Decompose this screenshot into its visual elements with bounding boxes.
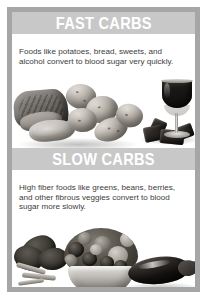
carbs-infographic: FAST CARBS Foods like potatoes, bread, s… xyxy=(7,7,200,292)
slow-carbs-photo xyxy=(12,222,195,287)
section-fast-carbs: FAST CARBS Foods like potatoes, bread, s… xyxy=(12,12,195,148)
slow-carbs-description: High fiber foods like greens, beans, ber… xyxy=(12,178,195,214)
potato-eye xyxy=(116,130,119,133)
fast-carbs-heading: FAST CARBS xyxy=(56,15,152,32)
potato-eye xyxy=(98,107,101,109)
kale-stalk xyxy=(18,278,44,286)
berry xyxy=(90,244,102,255)
potato-eye xyxy=(107,127,110,130)
slow-carbs-heading: SLOW CARBS xyxy=(52,151,154,168)
eggplant-illustration xyxy=(128,252,195,287)
bowl xyxy=(68,266,134,287)
wine-glass-bowl xyxy=(162,80,192,108)
wine-glass-illustration xyxy=(160,80,194,142)
berry xyxy=(120,232,135,247)
fast-carbs-header-band: FAST CARBS xyxy=(12,12,195,34)
potato-eye xyxy=(83,100,86,103)
potato-eye xyxy=(125,114,129,117)
slow-carbs-header-band: SLOW CARBS xyxy=(12,148,195,170)
potato-eye xyxy=(78,120,81,122)
fast-carbs-photo xyxy=(12,76,195,148)
wine-glass-stem xyxy=(175,113,178,133)
section-slow-carbs: SLOW CARBS High fiber foods like greens,… xyxy=(12,148,195,287)
potato-eye xyxy=(76,91,79,94)
berry xyxy=(78,232,92,245)
fast-carbs-description: Foods like potatoes, bread, sweets, and … xyxy=(12,42,195,68)
